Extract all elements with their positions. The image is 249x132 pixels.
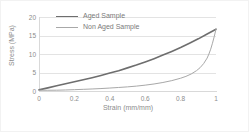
legend-item[interactable]: Non Aged Sample [56, 21, 139, 32]
x-axis-title: Strain (mm/mm) [39, 104, 217, 111]
legend-label: Aged Sample [83, 12, 125, 20]
x-tick-label: 0.2 [62, 95, 86, 102]
x-tick-label: 1 [204, 95, 228, 102]
legend-swatch-icon [56, 24, 78, 30]
x-tick-label: 0 [27, 95, 51, 102]
x-tick-label: 0.6 [133, 95, 157, 102]
legend-label: Non Aged Sample [83, 23, 139, 31]
x-tick-label: 0.4 [98, 95, 122, 102]
chart-legend: Aged SampleNon Aged Sample [56, 10, 139, 32]
y-axis-title: Stress (MPa) [8, 16, 15, 76]
stress-strain-chart: 05101520 00.20.40.60.81 Stress (MPa) Str… [0, 0, 249, 132]
legend-swatch-icon [56, 13, 78, 19]
legend-item[interactable]: Aged Sample [56, 10, 139, 21]
x-tick-label: 0.8 [169, 95, 193, 102]
